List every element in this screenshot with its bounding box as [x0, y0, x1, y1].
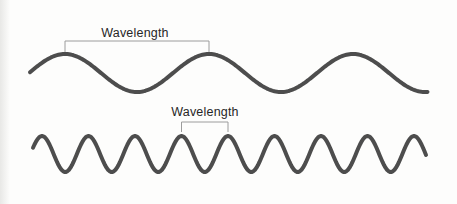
wave-comparison-figure: Wavelength Wavelength — [0, 0, 457, 204]
wavelength-label-short: Wavelength — [171, 105, 239, 119]
figure-background — [0, 0, 457, 204]
left-edge-shade — [0, 0, 10, 204]
wavelength-label-long: Wavelength — [101, 26, 169, 40]
wave-diagram-canvas: Wavelength Wavelength — [0, 0, 457, 204]
